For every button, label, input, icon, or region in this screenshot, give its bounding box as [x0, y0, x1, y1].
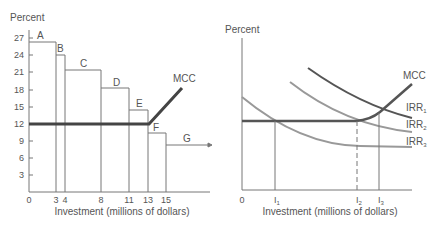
- left-mcc-line: [29, 88, 182, 124]
- svg-text:18: 18: [14, 85, 24, 95]
- svg-text:I3: I3: [378, 195, 385, 206]
- left-bars: [29, 42, 212, 192]
- left-y-axis-label: Percent: [10, 12, 45, 23]
- svg-text:6: 6: [19, 153, 24, 163]
- svg-text:E: E: [136, 98, 143, 109]
- svg-text:15: 15: [161, 195, 171, 205]
- svg-text:F: F: [153, 122, 159, 133]
- right-mcc-label: MCC: [403, 70, 426, 81]
- right-y-axis-label: Percent: [225, 24, 260, 35]
- svg-text:24: 24: [14, 50, 24, 60]
- chart-canvas: Percent 3 6 9 12 15 18 21 24 27 A: [0, 0, 438, 230]
- svg-text:B: B: [57, 43, 64, 54]
- svg-text:IRR2: IRR2: [406, 119, 427, 131]
- svg-text:13: 13: [143, 195, 153, 205]
- svg-text:I1: I1: [274, 195, 281, 206]
- irr1-curve: [308, 68, 412, 118]
- svg-text:9: 9: [19, 136, 24, 146]
- svg-text:IRR3: IRR3: [406, 136, 427, 148]
- svg-text:12: 12: [14, 119, 24, 129]
- left-y-ticks: 3 6 9 12 15 18 21 24 27: [14, 33, 33, 180]
- svg-text:C: C: [80, 58, 87, 69]
- left-mcc-label: MCC: [173, 73, 196, 84]
- svg-text:0: 0: [239, 195, 244, 205]
- svg-text:11: 11: [124, 195, 133, 205]
- left-x-axis-label: Investment (millions of dollars): [54, 206, 189, 217]
- svg-text:D: D: [113, 77, 120, 88]
- svg-text:3: 3: [53, 195, 58, 205]
- svg-text:21: 21: [14, 67, 24, 77]
- svg-text:0: 0: [26, 195, 31, 205]
- svg-text:27: 27: [14, 33, 24, 43]
- svg-text:G: G: [183, 133, 191, 144]
- left-x-ticks: 0 3 4 8 11 13 15: [26, 195, 171, 205]
- svg-text:IRR1: IRR1: [406, 102, 427, 114]
- svg-text:8: 8: [98, 195, 103, 205]
- left-bar-labels: A B C D E F G: [37, 30, 191, 144]
- left-chart: Percent 3 6 9 12 15 18 21 24 27 A: [10, 12, 212, 217]
- right-x-ticks: 0 I1 I2 I3: [239, 195, 384, 206]
- svg-text:3: 3: [19, 170, 24, 180]
- svg-text:15: 15: [14, 102, 24, 112]
- svg-text:I2: I2: [356, 195, 363, 206]
- svg-text:4: 4: [62, 195, 67, 205]
- irr-labels: IRR1 IRR2 IRR3: [406, 102, 427, 148]
- right-x-axis-label: Investment (millions of dollars): [262, 206, 397, 217]
- irr2-curve: [290, 82, 412, 132]
- right-chart: Percent MCC IRR1 IRR2 IRR3 0 I1 I2 I3 In…: [225, 24, 427, 217]
- svg-text:A: A: [37, 30, 44, 41]
